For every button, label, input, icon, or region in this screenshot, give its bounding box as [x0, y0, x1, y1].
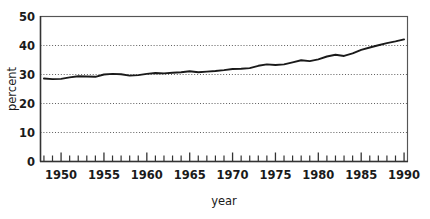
y-tick-label-30: 30	[19, 68, 35, 82]
x-tick-label-1990: 1990	[388, 168, 420, 182]
y-tick-label-20: 20	[19, 97, 35, 111]
x-tick-label-1985: 1985	[345, 168, 377, 182]
line-chart-svg: 195019551960196519701975198019851990 010…	[0, 0, 430, 219]
y-tick-label-50: 50	[19, 10, 35, 24]
x-axis-title: year	[211, 194, 237, 208]
plot-gridlines	[41, 46, 408, 133]
y-tick-label-10: 10	[19, 126, 35, 140]
y-tick-label-40: 40	[19, 39, 35, 53]
y-axis-tick-labels: 01020304050	[19, 10, 35, 169]
x-tick-label-1950: 1950	[45, 168, 77, 182]
x-tick-label-1960: 1960	[131, 168, 163, 182]
chart-figure: 195019551960196519701975198019851990 010…	[0, 0, 430, 219]
y-axis-title: percent	[5, 66, 19, 111]
x-tick-label-1980: 1980	[302, 168, 334, 182]
y-tick-label-0: 0	[27, 155, 35, 169]
plot-frame	[41, 17, 408, 162]
x-axis-ticks	[44, 153, 404, 162]
x-tick-label-1955: 1955	[88, 168, 120, 182]
x-tick-label-1970: 1970	[217, 168, 249, 182]
x-axis-tick-labels: 195019551960196519701975198019851990	[45, 168, 420, 182]
x-tick-label-1975: 1975	[259, 168, 291, 182]
x-tick-label-1965: 1965	[174, 168, 206, 182]
